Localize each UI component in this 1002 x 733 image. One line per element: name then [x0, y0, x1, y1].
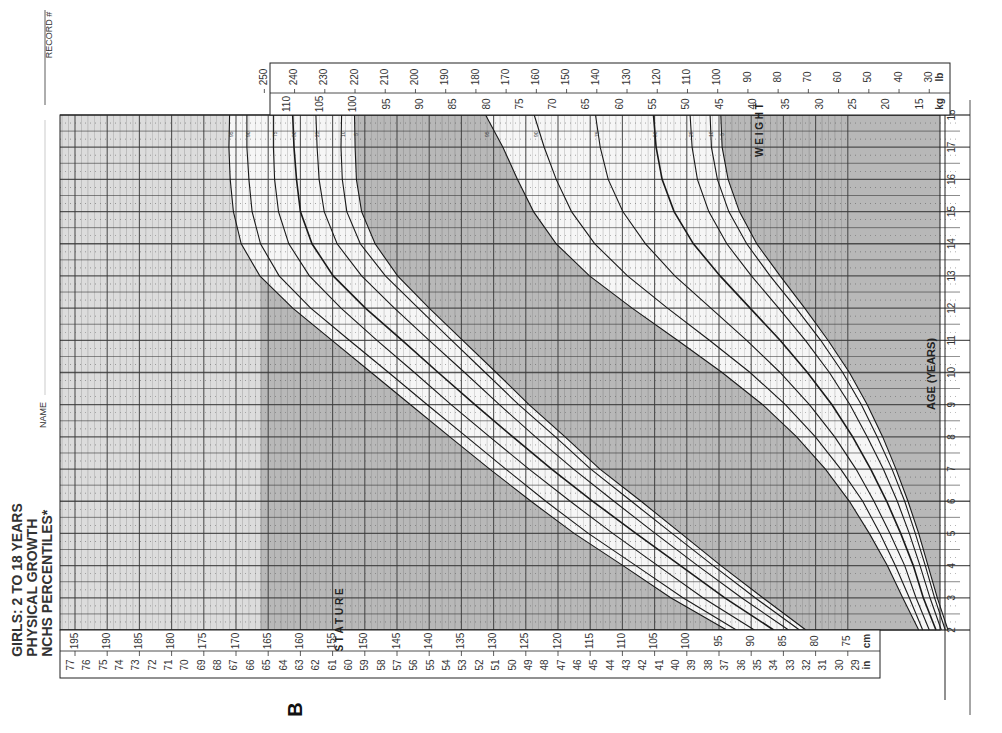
in-tick-label: 49 — [523, 659, 534, 671]
kg-tick-label: 100 — [347, 95, 358, 112]
stature-percentile-label: 90 — [245, 131, 251, 137]
cm-tick-label: 140 — [423, 632, 434, 649]
stature-percentile-label: 50 — [291, 131, 297, 137]
in-tick-label: 34 — [768, 659, 779, 671]
age-tick-label: 13 — [946, 270, 957, 282]
in-tick-label: 52 — [474, 659, 485, 671]
in-tick-label: 53 — [457, 659, 468, 671]
unit-in-label: in — [861, 661, 872, 670]
in-tick-label: 61 — [327, 659, 338, 671]
in-tick-label: 73 — [130, 659, 141, 671]
cm-tick-label: 105 — [648, 632, 659, 649]
age-tick-label: 2 — [946, 627, 957, 633]
age-tick-label: 15 — [946, 206, 957, 218]
weight-percentile-label: 75 — [594, 131, 600, 137]
lb-tick-label: 100 — [711, 68, 722, 85]
unit-lb-label: lb — [934, 73, 945, 82]
age-tick-label: 12 — [946, 302, 957, 314]
in-tick-label: 46 — [572, 659, 583, 671]
kg-tick-label: 80 — [481, 98, 492, 110]
cm-tick-label: 165 — [262, 632, 273, 649]
in-tick-label: 58 — [376, 659, 387, 671]
in-tick-label: 77 — [65, 659, 76, 671]
kg-tick-label: 15 — [914, 98, 925, 110]
cm-tick-label: 195 — [69, 632, 80, 649]
kg-tick-label: 25 — [847, 98, 858, 110]
figure-letter: B — [284, 702, 307, 716]
cm-tick-label: 95 — [713, 635, 724, 647]
in-tick-label: 65 — [261, 659, 272, 671]
lb-tick-label: 170 — [500, 68, 511, 85]
in-tick-label: 51 — [490, 659, 501, 671]
kg-tick-label: 110 — [281, 96, 292, 112]
kg-tick-label: 95 — [381, 98, 392, 110]
lb-tick-label: 110 — [681, 69, 692, 85]
lb-tick-label: 250 — [258, 68, 269, 85]
kg-tick-label: 75 — [514, 98, 525, 110]
in-tick-label: 30 — [834, 659, 845, 671]
in-tick-label: 47 — [556, 659, 567, 671]
in-tick-label: 55 — [425, 659, 436, 671]
stature-percentile-label: 95 — [228, 131, 234, 137]
lb-tick-label: 160 — [530, 68, 541, 85]
in-tick-label: 67 — [228, 659, 239, 671]
kg-tick-label: 85 — [447, 98, 458, 110]
in-tick-label: 62 — [310, 659, 321, 671]
age-tick-label: 5 — [946, 530, 957, 536]
in-tick-label: 40 — [670, 659, 681, 671]
in-tick-label: 63 — [294, 659, 305, 671]
lb-tick-label: 120 — [651, 68, 662, 85]
in-tick-label: 59 — [359, 659, 370, 671]
kg-tick-label: 55 — [647, 98, 658, 110]
title-line-3: NCHS PERCENTILES* — [40, 503, 55, 657]
in-tick-label: 38 — [703, 659, 714, 671]
in-tick-label: 60 — [343, 659, 354, 671]
age-tick-label: 6 — [946, 498, 957, 504]
lb-tick-label: 200 — [409, 68, 420, 85]
age-axis-title: AGE (YEARS) — [925, 338, 937, 410]
lb-tick-label: 210 — [379, 68, 390, 85]
lb-tick-label: 230 — [318, 68, 329, 85]
cm-tick-label: 90 — [745, 635, 756, 647]
in-tick-label: 72 — [147, 659, 158, 671]
lb-tick-label: 30 — [923, 71, 934, 83]
lb-tick-label: 240 — [288, 68, 299, 85]
lb-tick-label: 70 — [802, 71, 813, 83]
in-tick-label: 76 — [81, 659, 92, 671]
lb-tick-label: 80 — [772, 71, 783, 83]
in-tick-label: 37 — [719, 659, 730, 671]
kg-tick-label: 60 — [614, 98, 625, 110]
kg-tick-label: 50 — [680, 98, 691, 110]
cm-tick-label: 110 — [616, 633, 627, 649]
lb-tick-label: 60 — [832, 71, 843, 83]
kg-tick-label: 30 — [814, 98, 825, 110]
age-tick-label: 4 — [946, 562, 957, 568]
lb-tick-label: 40 — [893, 71, 904, 83]
stature-percentile-label: 10 — [340, 131, 346, 137]
stature-percentile-label: 25 — [314, 131, 320, 137]
weight-percentile-label: 25 — [688, 131, 694, 137]
in-tick-label: 36 — [736, 659, 747, 671]
stature-percentile-label: 5 — [353, 133, 359, 136]
cm-tick-label: 85 — [777, 635, 788, 647]
kg-tick-label: 65 — [580, 98, 591, 110]
record-field-label: RECORD # — [44, 12, 54, 59]
lb-tick-label: 220 — [349, 68, 360, 85]
in-tick-label: 75 — [98, 659, 109, 671]
cm-tick-label: 130 — [487, 632, 498, 649]
unit-cm-label: cm — [861, 634, 872, 649]
in-tick-label: 54 — [441, 659, 452, 671]
in-tick-label: 39 — [686, 659, 697, 671]
in-tick-label: 64 — [278, 659, 289, 671]
unit-kg-label: kg — [934, 98, 945, 110]
title-line-2: PHYSICAL GROWTH — [25, 503, 40, 657]
lb-tick-label: 50 — [862, 71, 873, 83]
age-tick-label: 7 — [946, 466, 957, 472]
lb-tick-label: 140 — [590, 68, 601, 85]
growth-chart: 9590755025105959075502510523456789101112… — [0, 0, 1002, 733]
kg-tick-label: 20 — [880, 98, 891, 110]
stature-label: S T A T U R E — [334, 588, 345, 651]
in-tick-label: 41 — [654, 659, 665, 671]
kg-tick-label: 70 — [547, 98, 558, 110]
weight-percentile-label: 5 — [719, 133, 725, 136]
